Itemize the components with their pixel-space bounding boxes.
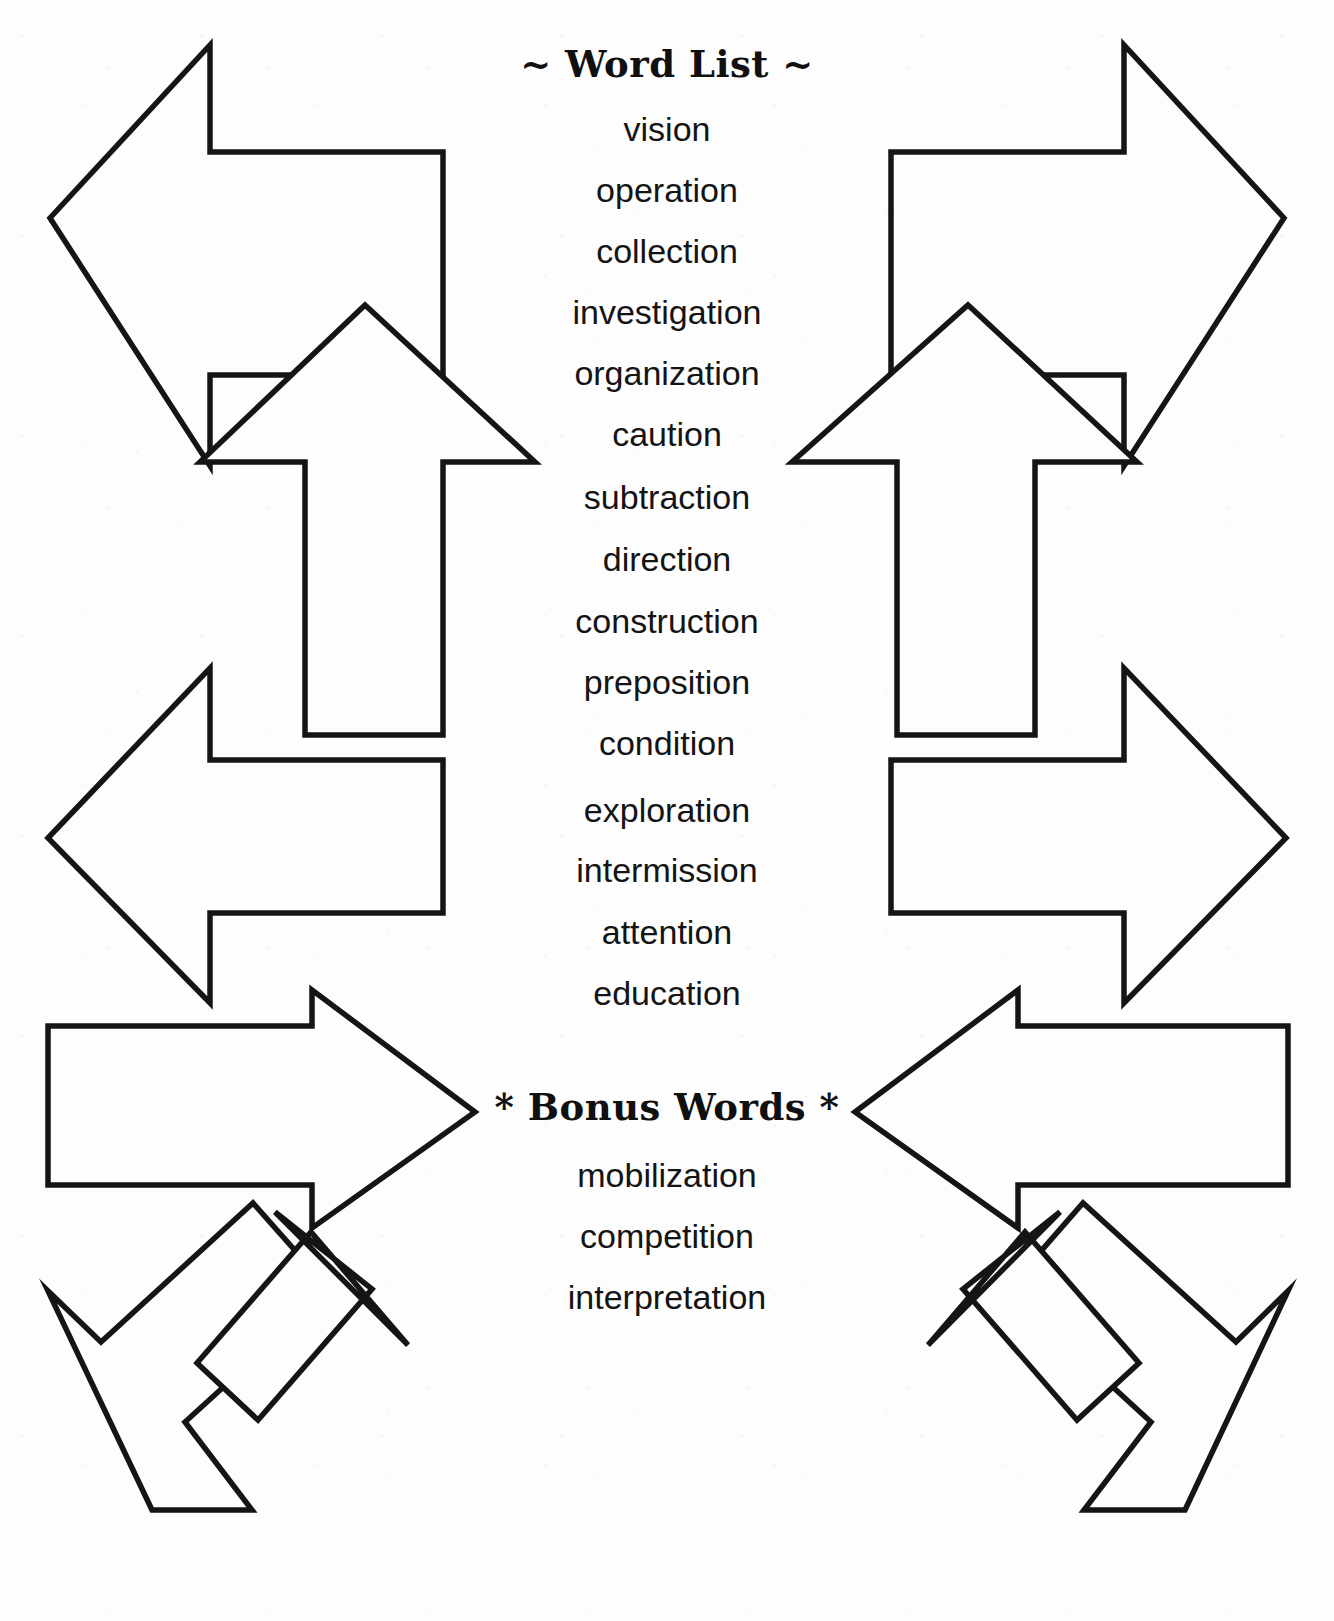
bonus-word-item: competition	[427, 1217, 907, 1255]
word-list-item: intermission	[427, 851, 907, 889]
word-list-item: organization	[427, 354, 907, 392]
word-list-item: caution	[427, 415, 907, 453]
word-list-item: operation	[427, 171, 907, 209]
worksheet-page: ~ Word List ~ vision operation collectio…	[0, 0, 1334, 1621]
bonus-word-item: mobilization	[427, 1156, 907, 1194]
word-list-item: preposition	[427, 663, 907, 701]
word-list-item: construction	[427, 602, 907, 640]
bonus-word-item: interpretation	[427, 1278, 907, 1316]
word-list-item: collection	[427, 232, 907, 270]
word-list-item: exploration	[427, 791, 907, 829]
arrow-lower-right-pointing-left	[855, 990, 1288, 1228]
arrow-lower-left-pointing-right	[48, 990, 475, 1228]
word-list-item: direction	[427, 540, 907, 578]
word-list-item: subtraction	[427, 478, 907, 516]
word-list-item: investigation	[427, 293, 907, 331]
word-list-item: vision	[427, 110, 907, 148]
word-list-item: attention	[427, 913, 907, 951]
word-list-item: condition	[427, 724, 907, 762]
word-list-item: education	[427, 974, 907, 1012]
bonus-words-title: * Bonus Words *	[427, 1087, 907, 1127]
word-list-title: ~ Word List ~	[427, 44, 907, 84]
